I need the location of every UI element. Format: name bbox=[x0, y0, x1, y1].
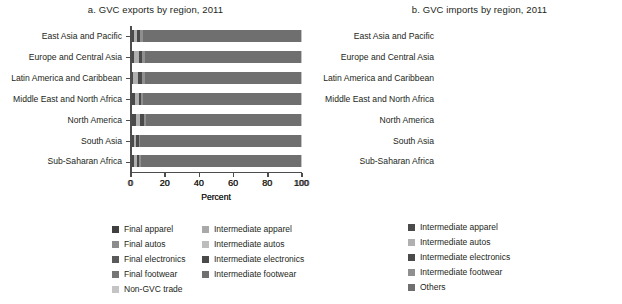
bar-segment bbox=[143, 93, 301, 105]
panel-a-title: a. GVC exports by region, 2011 bbox=[0, 4, 311, 15]
category-label: Europe and Central Asia bbox=[311, 47, 438, 68]
x-axis-title: Percent bbox=[166, 192, 266, 202]
category-label: North America bbox=[0, 109, 126, 130]
legend-label: Final autos bbox=[124, 240, 166, 249]
legend-label: Intermediate electronics bbox=[214, 255, 304, 264]
x-axis-tick-label: 40 bbox=[186, 178, 212, 188]
bar-row bbox=[131, 89, 301, 110]
panel-b-plot-area: 020406080100Percent bbox=[131, 26, 301, 172]
x-axis-tick-label: 100 bbox=[288, 178, 314, 188]
legend-swatch-icon bbox=[202, 226, 209, 233]
legend-swatch-icon bbox=[112, 286, 119, 293]
category-label: South Asia bbox=[311, 130, 438, 151]
legend-label: Intermediate autos bbox=[214, 240, 284, 249]
category-label: Sub-Saharan Africa bbox=[0, 151, 126, 172]
legend-item: Final autos bbox=[112, 237, 202, 252]
category-label: Latin America and Caribbean bbox=[0, 68, 126, 89]
bar-segment bbox=[146, 114, 301, 126]
stacked-bar bbox=[131, 72, 301, 84]
legend-item: Intermediate apparel bbox=[408, 220, 510, 235]
bar-row bbox=[131, 68, 301, 89]
legend-swatch-icon bbox=[408, 254, 415, 261]
bar-row bbox=[131, 47, 301, 68]
legend-item: Intermediate footwear bbox=[202, 267, 310, 282]
x-axis-tick bbox=[301, 173, 302, 177]
legend-item: Final apparel bbox=[112, 222, 202, 237]
bar-segment bbox=[140, 135, 301, 147]
figure-root: a. GVC exports by region, 2011 East Asia… bbox=[0, 0, 622, 304]
bar-row bbox=[131, 109, 301, 130]
category-label: Latin America and Caribbean bbox=[311, 68, 438, 89]
x-axis-line bbox=[131, 172, 301, 173]
legend-swatch-icon bbox=[408, 224, 415, 231]
panel-a-legend-column-2: Intermediate apparelIntermediate autosIn… bbox=[202, 222, 310, 282]
legend-swatch-icon bbox=[112, 271, 119, 278]
panel-b-legend: Intermediate apparelIntermediate autosIn… bbox=[408, 220, 608, 295]
panel-b-title: b. GVC imports by region, 2011 bbox=[311, 4, 622, 15]
legend-item: Intermediate autos bbox=[408, 235, 510, 250]
legend-swatch-icon bbox=[408, 269, 415, 276]
category-label: Middle East and North Africa bbox=[311, 89, 438, 110]
x-axis-tick-label: 60 bbox=[220, 178, 246, 188]
legend-swatch-icon bbox=[112, 256, 119, 263]
legend-label: Intermediate footwear bbox=[214, 270, 296, 279]
legend-item: Intermediate footwear bbox=[408, 265, 510, 280]
panel-b-bars bbox=[131, 26, 301, 172]
x-axis-tick bbox=[199, 173, 200, 177]
panel-b-category-labels: East Asia and PacificEurope and Central … bbox=[311, 26, 438, 172]
x-axis-tick bbox=[302, 173, 303, 177]
legend-item: Intermediate electronics bbox=[202, 252, 310, 267]
legend-item: Intermediate apparel bbox=[202, 222, 310, 237]
bar-segment bbox=[145, 51, 301, 63]
legend-label: Non-GVC trade bbox=[124, 285, 183, 294]
stacked-bar bbox=[131, 30, 301, 42]
category-label: East Asia and Pacific bbox=[311, 26, 438, 47]
category-label: East Asia and Pacific bbox=[0, 26, 126, 47]
x-axis-tick-label: 0 bbox=[118, 178, 144, 188]
bar-row bbox=[131, 26, 301, 47]
legend-swatch-icon bbox=[408, 239, 415, 246]
legend-label: Final electronics bbox=[124, 255, 185, 264]
legend-item: Others bbox=[408, 280, 510, 295]
panel-a-category-labels: East Asia and PacificEurope and Central … bbox=[0, 26, 126, 172]
legend-item: Intermediate autos bbox=[202, 237, 310, 252]
x-axis-tick-label: 80 bbox=[254, 178, 280, 188]
bar-row bbox=[131, 151, 301, 172]
x-axis-tick bbox=[233, 173, 234, 177]
stacked-bar bbox=[131, 135, 301, 147]
legend-item: Final footwear bbox=[112, 267, 202, 282]
panel-a-legend: Final apparelFinal autosFinal electronic… bbox=[112, 222, 312, 297]
bar-segment bbox=[141, 155, 301, 167]
category-label: Europe and Central Asia bbox=[0, 47, 126, 68]
panel-b-legend-column-1: Intermediate apparelIntermediate autosIn… bbox=[408, 220, 510, 295]
legend-label: Others bbox=[420, 283, 446, 292]
legend-label: Final footwear bbox=[124, 270, 177, 279]
category-label: Middle East and North Africa bbox=[0, 89, 126, 110]
legend-label: Final apparel bbox=[124, 225, 173, 234]
x-axis-tick bbox=[131, 173, 132, 177]
bar-row bbox=[131, 130, 301, 151]
category-label: Sub-Saharan Africa bbox=[311, 151, 438, 172]
legend-swatch-icon bbox=[202, 271, 209, 278]
legend-swatch-icon bbox=[408, 284, 415, 291]
bar-segment bbox=[143, 30, 301, 42]
legend-item: Intermediate electronics bbox=[408, 250, 510, 265]
legend-swatch-icon bbox=[202, 256, 209, 263]
legend-label: Intermediate apparel bbox=[420, 223, 498, 232]
stacked-bar bbox=[131, 114, 301, 126]
y-axis-line bbox=[131, 26, 132, 172]
legend-label: Intermediate apparel bbox=[214, 225, 292, 234]
legend-label: Intermediate electronics bbox=[420, 253, 510, 262]
category-label: South Asia bbox=[0, 130, 126, 151]
panel-a-legend-column-1: Final apparelFinal autosFinal electronic… bbox=[112, 222, 202, 297]
legend-swatch-icon bbox=[202, 241, 209, 248]
legend-swatch-icon bbox=[112, 241, 119, 248]
legend-label: Intermediate autos bbox=[420, 238, 490, 247]
stacked-bar bbox=[131, 155, 301, 167]
stacked-bar bbox=[131, 93, 301, 105]
x-axis-tick-label: 20 bbox=[152, 178, 178, 188]
legend-label: Intermediate footwear bbox=[420, 268, 502, 277]
bar-segment bbox=[145, 72, 301, 84]
x-axis-tick bbox=[267, 173, 268, 177]
stacked-bar bbox=[131, 51, 301, 63]
